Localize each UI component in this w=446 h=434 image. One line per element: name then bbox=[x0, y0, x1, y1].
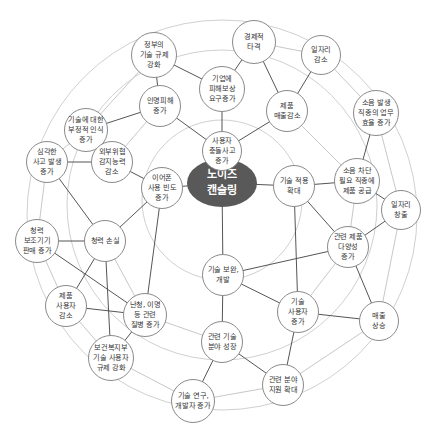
diagram-node: 제품 매출감소 bbox=[266, 90, 308, 132]
diagram-node: 심각한 사고 발생 증가 bbox=[26, 141, 68, 183]
diagram-node: 소음 차단 필요 직종에 제품 공급 bbox=[334, 158, 380, 204]
diagram-node: 인명피해 증가 bbox=[139, 85, 181, 127]
diagram-node: 청력 손실 bbox=[84, 220, 126, 262]
futures-wheel-diagram: 노이즈 캔슬링경제적 타격정부의 기술 규제 강화일자리 감소기업에 피해보상 … bbox=[0, 0, 446, 434]
diagram-node: 경제적 타격 bbox=[232, 20, 276, 64]
diagram-node: 기업에 피해보상 요구증가 bbox=[199, 66, 245, 112]
diagram-node: 매출 상승 bbox=[359, 301, 399, 341]
diagram-node: 기술 적용 확대 bbox=[273, 165, 315, 207]
diagram-node: 일자리 감소 bbox=[301, 35, 341, 75]
diagram-node: 난청, 이명 등 관련 질병 증가 bbox=[123, 293, 167, 337]
diagram-node: 정부의 기술 규제 강화 bbox=[131, 32, 177, 78]
diagram-node: 소음 발생 직종의 업무 효율 증가 bbox=[353, 90, 399, 136]
diagram-node: 관련 분야 지원 확대 bbox=[262, 364, 304, 406]
diagram-node: 기술 보완, 개발 bbox=[202, 254, 244, 296]
diagram-node: 보건복지부 기술 사용자 규제 강화 bbox=[88, 335, 134, 381]
diagram-node: 기술 사용자 증가 bbox=[277, 291, 319, 333]
diagram-node: 청력 보조기기 판매 증가 bbox=[15, 219, 59, 263]
diagram-node: 제품 사용자 감소 bbox=[45, 285, 87, 327]
diagram-node: 외부위협 감지능력 감소 bbox=[91, 141, 133, 183]
figure-caption bbox=[150, 426, 300, 430]
diagram-node: 일자리 창출 bbox=[381, 190, 421, 230]
diagram-node: 이어폰 사용 빈도 증가 bbox=[141, 167, 183, 209]
diagram-node: 관련 기술 분야 성장 bbox=[201, 321, 243, 363]
diagram-node: 기술 연구, 개발자 증가 bbox=[171, 379, 215, 423]
diagram-node: 관련 제품 다양성 증가 bbox=[327, 226, 369, 268]
diagram-node: 사용자 충돌사고 증가 bbox=[202, 131, 242, 171]
